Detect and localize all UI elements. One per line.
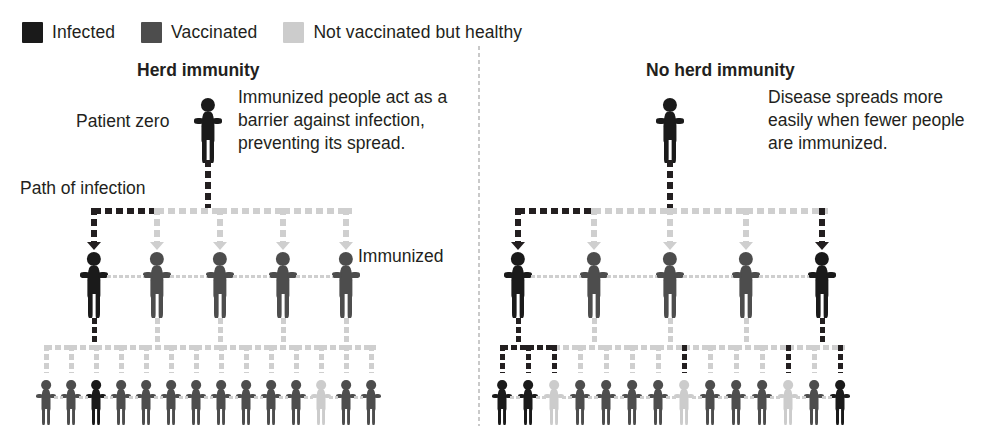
person-head bbox=[241, 380, 251, 390]
person-leg-right bbox=[503, 409, 507, 425]
person-head bbox=[66, 380, 76, 390]
connector-horizontal bbox=[536, 396, 546, 399]
person-head bbox=[705, 380, 715, 390]
person-level2 bbox=[829, 380, 851, 425]
person-leg-right bbox=[815, 409, 819, 425]
person-head bbox=[653, 380, 663, 390]
person-leg-gap bbox=[683, 409, 685, 426]
person-torso bbox=[663, 266, 676, 298]
connector-vertical bbox=[319, 345, 324, 373]
connector-vertical bbox=[820, 318, 825, 345]
person-level1 bbox=[730, 252, 762, 318]
person-level2 bbox=[310, 380, 332, 425]
connector-vertical bbox=[343, 208, 349, 242]
connector-horizontal bbox=[254, 396, 263, 399]
person-leg-right bbox=[737, 409, 741, 425]
connector-vertical bbox=[44, 345, 49, 373]
person-head bbox=[809, 380, 819, 390]
person-leg-gap bbox=[517, 294, 520, 318]
person-head bbox=[191, 380, 201, 390]
connector-horizontal bbox=[562, 396, 572, 399]
person-head bbox=[150, 252, 164, 266]
connector-horizontal bbox=[670, 208, 752, 214]
person-leg-right bbox=[72, 409, 76, 425]
connector-horizontal bbox=[154, 396, 163, 399]
person-torso bbox=[587, 266, 600, 298]
arrowhead-icon bbox=[150, 242, 164, 250]
connector-horizontal bbox=[329, 396, 338, 399]
person-head bbox=[663, 252, 677, 266]
person-head bbox=[216, 380, 226, 390]
person-level2 bbox=[777, 380, 799, 425]
connector-vertical bbox=[734, 345, 739, 373]
person-torso bbox=[241, 389, 250, 411]
person-level1 bbox=[502, 252, 534, 318]
connector-vertical bbox=[155, 318, 160, 345]
person-leg-right bbox=[284, 294, 289, 317]
person-level2 bbox=[699, 380, 721, 425]
person-level2 bbox=[260, 380, 282, 425]
right-panel-title: No herd immunity bbox=[646, 60, 795, 81]
connector-vertical bbox=[667, 208, 673, 242]
person-leg-gap bbox=[579, 409, 581, 426]
person-head bbox=[201, 98, 215, 112]
person-arm-left bbox=[656, 272, 666, 278]
person-leg-gap bbox=[45, 409, 47, 426]
person-leg-right bbox=[158, 294, 163, 317]
person-torso bbox=[216, 389, 225, 411]
person-arm-right bbox=[374, 394, 381, 398]
person-leg-gap bbox=[527, 409, 529, 426]
connector-vertical bbox=[219, 345, 224, 373]
connector-vertical bbox=[294, 345, 299, 373]
person-leg-gap bbox=[370, 409, 372, 426]
connector-horizontal bbox=[79, 396, 88, 399]
person-torso bbox=[757, 389, 766, 411]
person-torso bbox=[815, 266, 828, 298]
person-level2 bbox=[569, 380, 591, 425]
person-level1 bbox=[578, 252, 610, 318]
person-torso bbox=[150, 266, 163, 298]
person-arm-left bbox=[656, 118, 666, 124]
person-head bbox=[601, 380, 611, 390]
person-level2 bbox=[647, 380, 669, 425]
connector-horizontal bbox=[594, 208, 676, 214]
person-level2 bbox=[621, 380, 643, 425]
person-leg-right bbox=[347, 409, 351, 425]
person-leg-right bbox=[247, 409, 251, 425]
person-leg-gap bbox=[93, 294, 96, 318]
infographic-canvas: Infected Vaccinated Not vaccinated but h… bbox=[0, 0, 982, 432]
person-torso bbox=[601, 389, 610, 411]
connector-vertical bbox=[667, 160, 673, 208]
person-level2 bbox=[673, 380, 695, 425]
connector-vertical bbox=[344, 318, 349, 345]
person-torso bbox=[549, 389, 558, 411]
connector-vertical bbox=[92, 318, 97, 345]
person-leg-right bbox=[763, 409, 767, 425]
person-leg-right bbox=[122, 409, 126, 425]
person-head bbox=[339, 252, 353, 266]
person-leg-gap bbox=[195, 409, 197, 426]
person-head bbox=[739, 252, 753, 266]
connector-horizontal bbox=[822, 396, 832, 399]
person-arm-left bbox=[143, 272, 153, 278]
person-level2 bbox=[335, 380, 357, 425]
person-torso bbox=[66, 389, 75, 411]
patient-zero-label: Patient zero bbox=[76, 111, 169, 132]
person-head bbox=[523, 380, 533, 390]
person-level1 bbox=[204, 252, 236, 318]
person-torso bbox=[731, 389, 740, 411]
connector-vertical bbox=[744, 318, 749, 345]
connector-vertical bbox=[91, 208, 97, 242]
arrowhead-icon bbox=[339, 242, 353, 250]
person-head bbox=[141, 380, 151, 390]
person-arm-right bbox=[350, 272, 360, 278]
connector-vertical bbox=[369, 345, 374, 373]
person-level1 bbox=[806, 252, 838, 318]
connector-vertical bbox=[760, 345, 765, 373]
connector-horizontal bbox=[614, 396, 624, 399]
person-leg-gap bbox=[787, 409, 789, 426]
connector-horizontal bbox=[104, 396, 113, 399]
person-torso bbox=[316, 389, 325, 411]
connector-horizontal bbox=[510, 396, 520, 399]
connector-horizontal bbox=[354, 396, 363, 399]
